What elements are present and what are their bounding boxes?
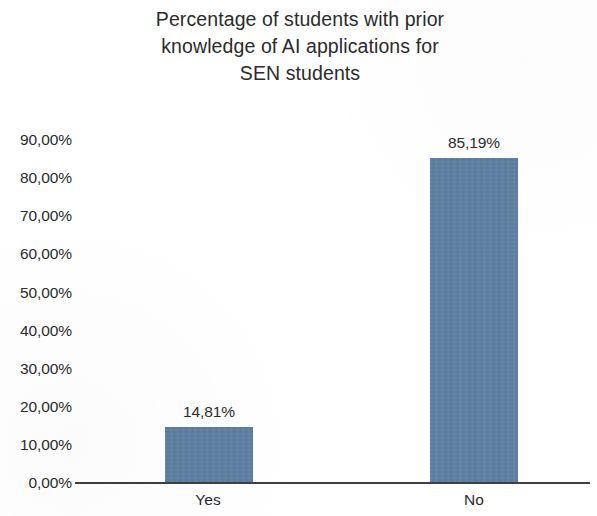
y-axis-tick-label: 90,00% [0,132,72,148]
y-axis-tick-label: 30,00% [0,361,72,377]
y-axis-tick-labels: 90,00% 80,00% 70,00% 60,00% 50,00% 40,00… [0,0,72,516]
y-axis-tick-label: 20,00% [0,399,72,415]
bar-value-label-no: 85,19% [419,134,529,151]
y-axis-tick-label: 70,00% [0,208,72,224]
y-axis-tick-label: 80,00% [0,170,72,186]
y-axis-tick-label: 50,00% [0,285,72,301]
y-axis-tick-label: 0,00% [0,475,72,491]
x-axis-category-label-yes: Yes [153,491,263,509]
x-axis-category-label-no: No [419,491,529,509]
y-axis-tick-label: 10,00% [0,437,72,453]
bar-yes[interactable] [165,427,253,483]
y-axis-tick-label: 60,00% [0,246,72,262]
x-axis-line [75,482,590,484]
bar-value-label-yes: 14,81% [154,403,264,420]
y-axis-tick-label: 40,00% [0,323,72,339]
plot-area: 90,00% 80,00% 70,00% 60,00% 50,00% 40,00… [0,0,597,516]
bar-chart-figure: Percentage of students with prior knowle… [0,0,597,516]
bar-no[interactable] [430,158,518,483]
